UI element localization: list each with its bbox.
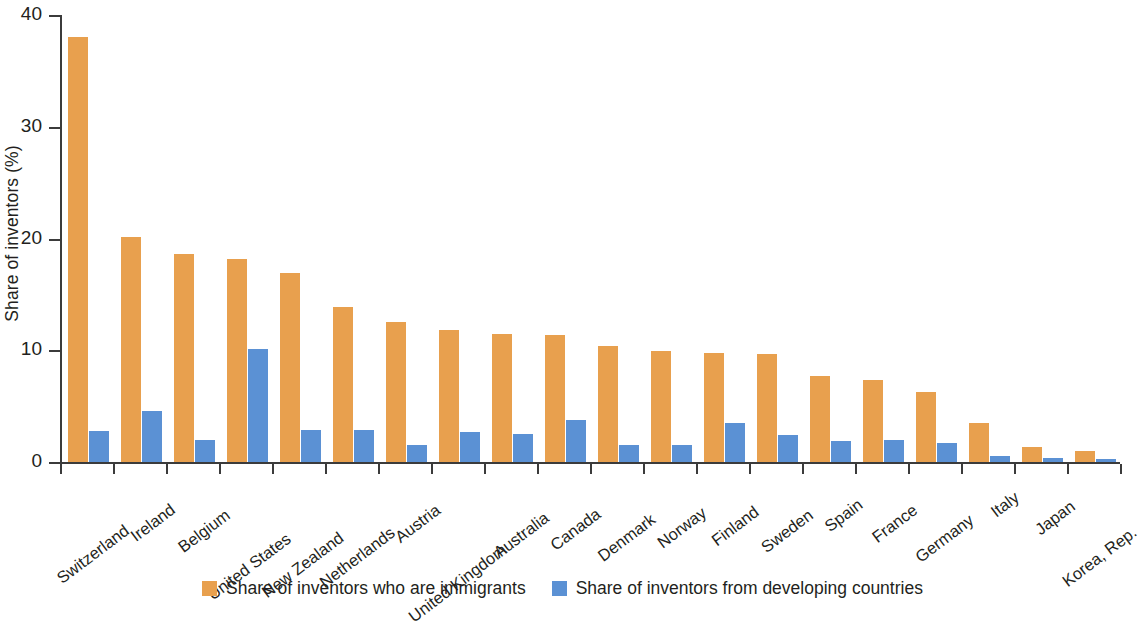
bar-developing bbox=[884, 440, 904, 462]
bar-group bbox=[863, 15, 904, 462]
legend-label: Share of inventors from developing count… bbox=[576, 578, 923, 598]
x-axis-label-text: Germany bbox=[911, 510, 976, 565]
x-axis-label: Canada bbox=[593, 470, 650, 519]
x-axis-labels: SwitzerlandIrelandBelgiumUnited StatesNe… bbox=[60, 466, 1120, 576]
bar-immigrants bbox=[651, 351, 671, 462]
bar-immigrants bbox=[386, 322, 406, 462]
bar-group bbox=[227, 15, 268, 462]
bar-group bbox=[280, 15, 321, 462]
bar-immigrants bbox=[545, 335, 565, 462]
bar-immigrants bbox=[863, 380, 883, 462]
bar-group bbox=[68, 15, 109, 462]
y-axis-tick: 10 bbox=[49, 350, 60, 352]
y-axis-tick-label: 10 bbox=[21, 338, 42, 360]
bar-immigrants bbox=[704, 353, 724, 463]
x-axis-label: Belgium bbox=[222, 470, 280, 520]
legend-label: Share of inventors who are immigrants bbox=[226, 578, 526, 598]
bar-developing bbox=[937, 443, 957, 462]
x-axis-label: Finland bbox=[751, 470, 805, 517]
bar-group bbox=[439, 15, 480, 462]
bar-developing bbox=[248, 349, 268, 462]
y-axis-tick-label: 20 bbox=[21, 227, 42, 249]
bar-group bbox=[757, 15, 798, 462]
bar-group bbox=[545, 15, 586, 462]
x-axis-label: Japan bbox=[1067, 470, 1114, 511]
bar-developing bbox=[619, 445, 639, 462]
y-axis-tick-label: 40 bbox=[21, 3, 42, 25]
bar-group bbox=[1022, 15, 1063, 462]
bar-developing bbox=[725, 423, 745, 462]
bar-group bbox=[492, 15, 533, 462]
bar-immigrants bbox=[969, 423, 989, 462]
bar-developing bbox=[142, 411, 162, 462]
x-axis-label-text: Belgium bbox=[174, 505, 232, 555]
bar-immigrants bbox=[174, 254, 194, 462]
bar-group bbox=[174, 15, 215, 462]
bar-immigrants bbox=[280, 273, 300, 462]
bar-immigrants bbox=[121, 237, 141, 462]
bar-developing bbox=[89, 431, 109, 462]
bar-immigrants bbox=[68, 37, 88, 462]
y-axis-tick-label: 30 bbox=[21, 115, 42, 137]
bar-developing bbox=[831, 441, 851, 462]
bar-immigrants bbox=[598, 346, 618, 462]
x-axis-label-text: Switzerland bbox=[53, 521, 132, 587]
bar-immigrants bbox=[227, 259, 247, 462]
bar-immigrants bbox=[1022, 447, 1042, 462]
bar-group bbox=[386, 15, 427, 462]
y-axis-tick: 0 bbox=[49, 462, 60, 464]
y-axis-tick: 30 bbox=[49, 127, 60, 129]
bar-immigrants bbox=[757, 354, 777, 462]
bar-immigrants bbox=[810, 376, 830, 462]
bar-group bbox=[969, 15, 1010, 462]
bar-developing bbox=[672, 445, 692, 462]
x-axis-label-text: Japan bbox=[1031, 497, 1078, 538]
chart-legend: Share of inventors who are immigrantsSha… bbox=[0, 578, 1125, 598]
y-axis-title-text: Share of inventors (%) bbox=[2, 145, 23, 321]
x-axis-label: Spain bbox=[854, 470, 899, 510]
bar-developing bbox=[513, 434, 533, 462]
x-axis-label: France bbox=[909, 470, 961, 515]
y-axis-tick: 40 bbox=[49, 15, 60, 17]
bar-developing bbox=[460, 432, 480, 462]
x-axis-label-text: Australia bbox=[490, 508, 552, 561]
x-axis-label: Korea, Rep. bbox=[1129, 470, 1142, 537]
bar-group bbox=[333, 15, 374, 462]
bar-group bbox=[598, 15, 639, 462]
bar-developing bbox=[566, 420, 586, 462]
x-axis-tick bbox=[1120, 464, 1122, 474]
bar-group bbox=[810, 15, 851, 462]
bar-immigrants bbox=[439, 330, 459, 462]
bar-group bbox=[651, 15, 692, 462]
bar-immigrants bbox=[1075, 451, 1095, 462]
bar-group bbox=[704, 15, 745, 462]
bar-developing bbox=[354, 430, 374, 462]
bar-developing bbox=[1096, 459, 1116, 462]
y-axis-tick-label: 0 bbox=[31, 450, 42, 472]
bar-group bbox=[1075, 15, 1116, 462]
bar-immigrants bbox=[492, 334, 512, 463]
x-axis-label-text: France bbox=[868, 501, 920, 546]
y-axis-tick: 20 bbox=[49, 239, 60, 241]
legend-item: Share of inventors who are immigrants bbox=[202, 578, 526, 598]
legend-swatch-icon bbox=[202, 581, 217, 596]
legend-swatch-icon bbox=[552, 581, 567, 596]
plot-area: 010203040 bbox=[60, 15, 1120, 464]
bar-group bbox=[916, 15, 957, 462]
bar-developing bbox=[301, 430, 321, 462]
bar-developing bbox=[407, 445, 427, 462]
bar-developing bbox=[990, 456, 1010, 462]
bar-developing bbox=[778, 435, 798, 462]
bar-developing bbox=[1043, 458, 1063, 462]
bar-developing bbox=[195, 440, 215, 462]
bar-group bbox=[121, 15, 162, 462]
y-axis-line bbox=[60, 15, 62, 464]
legend-item: Share of inventors from developing count… bbox=[552, 578, 923, 598]
bar-immigrants bbox=[916, 392, 936, 462]
bar-immigrants bbox=[333, 307, 353, 462]
